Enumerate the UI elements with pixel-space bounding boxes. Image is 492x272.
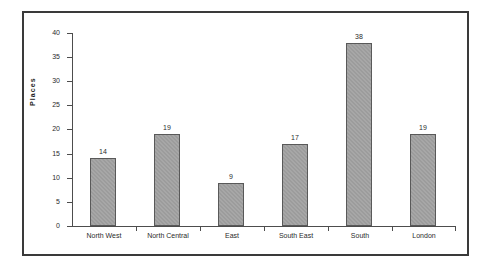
y-axis-tick-label: 5	[38, 198, 60, 205]
bar-value-label: 17	[282, 134, 308, 142]
x-axis-category-label: London	[392, 231, 456, 240]
y-axis-tick-label: 25	[38, 101, 60, 108]
bar-value-label: 38	[346, 33, 372, 41]
y-axis-tick	[67, 202, 73, 203]
bar-chart: Places 0 5 10 15 20 25 30 35 40 14 19 9 …	[0, 0, 492, 272]
y-axis-tick-label: 10	[38, 174, 60, 181]
bar-value-label: 19	[154, 124, 180, 132]
y-axis-tick	[67, 33, 73, 34]
y-axis-tick	[67, 57, 73, 58]
bar-south	[346, 43, 372, 226]
x-axis-category-label: South	[328, 231, 392, 240]
bar-north-west	[90, 158, 116, 226]
y-axis-tick	[67, 105, 73, 106]
bar-value-label: 19	[410, 124, 436, 132]
y-axis-tick-label: 0	[38, 222, 60, 229]
y-axis-tick	[67, 178, 73, 179]
x-axis-category-label: East	[200, 231, 264, 240]
y-axis-tick	[67, 226, 73, 227]
bar-east	[218, 183, 244, 226]
bar-north-central	[154, 134, 180, 226]
y-axis-tick	[67, 81, 73, 82]
y-axis-tick-label: 20	[38, 125, 60, 132]
bar-value-label: 14	[90, 148, 116, 156]
y-axis-line	[72, 33, 73, 227]
x-axis-category-label: North Central	[136, 231, 200, 240]
y-axis-tick-label: 30	[38, 77, 60, 84]
x-axis-category-label: South East	[264, 231, 328, 240]
y-axis-tick-label: 35	[38, 53, 60, 60]
y-axis-tick	[67, 129, 73, 130]
x-axis-category-label: North West	[73, 231, 135, 240]
bar-london	[410, 134, 436, 226]
bar-south-east	[282, 144, 308, 226]
y-axis-tick-label: 15	[38, 150, 60, 157]
bar-value-label: 9	[218, 173, 244, 181]
y-axis-tick-label: 40	[38, 29, 60, 36]
y-axis-tick	[67, 154, 73, 155]
